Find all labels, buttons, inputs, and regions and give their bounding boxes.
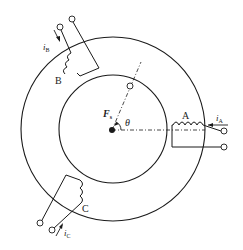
winding-c <box>37 175 83 236</box>
mmf-marker <box>127 83 133 89</box>
current-c-label: iC <box>64 228 71 239</box>
winding-a-label: A <box>182 110 190 121</box>
current-a-label: iA <box>216 113 224 124</box>
mmf-label: Fs <box>102 108 113 120</box>
winding-b-label: B <box>55 75 62 86</box>
winding-c-label: C <box>82 203 89 214</box>
stator-diagram: Fs θ A iA B iB C iC <box>0 0 243 250</box>
angle-label: θ <box>125 117 130 128</box>
winding-a <box>172 122 228 150</box>
current-b-label: iB <box>43 42 50 53</box>
winding-b <box>54 16 99 76</box>
